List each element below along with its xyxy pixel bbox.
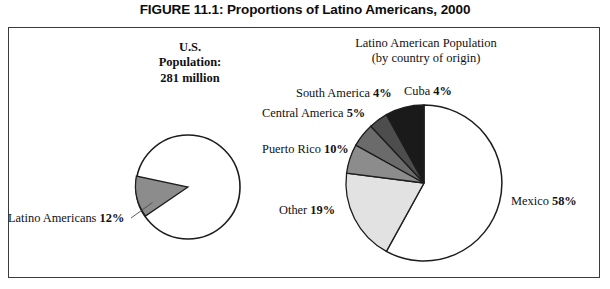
label-puerto-rico-name: Puerto Rico — [262, 142, 324, 156]
label-other-name: Other — [279, 203, 310, 217]
label-puerto-rico-value: 10% — [324, 142, 349, 156]
label-south-america-value: 4% — [373, 86, 392, 100]
figure-page: FIGURE 11.1: Proportions of Latino Ameri… — [0, 0, 610, 289]
label-central-america: Central America 5% — [262, 107, 365, 121]
latino-population-heading: Latino American Population (by country o… — [318, 36, 534, 67]
label-latino-americans-name: Latino Americans — [8, 211, 100, 225]
label-cuba-name: Cuba — [404, 84, 433, 98]
latino-population-heading-line1: Latino American Population — [318, 36, 534, 51]
us-population-heading-line2: Population: — [130, 55, 250, 70]
latino-population-heading-line2: (by country of origin) — [318, 51, 534, 66]
label-central-america-value: 5% — [347, 106, 366, 120]
label-latino-americans: Latino Americans 12% — [8, 212, 124, 226]
label-mexico: Mexico 58% — [511, 195, 577, 209]
label-mexico-value: 58% — [552, 194, 577, 208]
label-other: Other 19% — [279, 204, 335, 218]
label-cuba: Cuba 4% — [404, 85, 452, 99]
label-cuba-value: 4% — [433, 84, 452, 98]
label-central-america-name: Central America — [262, 106, 347, 120]
label-south-america-name: South America — [296, 86, 373, 100]
label-other-value: 19% — [310, 203, 335, 217]
us-population-heading: U.S. Population: 281 million — [130, 40, 250, 86]
us-population-pie — [131, 135, 240, 239]
us-population-heading-line3: 281 million — [130, 71, 250, 86]
label-south-america: South America 4% — [296, 87, 392, 101]
label-puerto-rico: Puerto Rico 10% — [262, 143, 349, 157]
label-latino-americans-value: 12% — [100, 211, 125, 225]
us-population-heading-line1: U.S. — [130, 40, 250, 55]
latino-origin-pie — [346, 105, 502, 261]
label-mexico-name: Mexico — [511, 194, 552, 208]
